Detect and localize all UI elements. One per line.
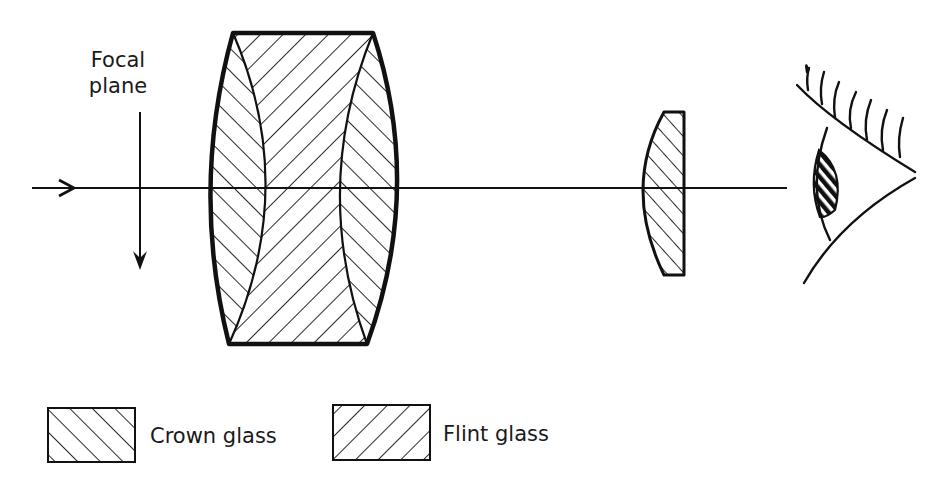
focal-plane-label-line2: plane [84, 73, 152, 99]
legend-flint-label: Flint glass [443, 422, 549, 446]
focal-plane-label-line1: Focal [84, 47, 152, 73]
legend-flint-swatch [333, 405, 430, 460]
eye-lens [638, 112, 686, 275]
eye-cornea-icon [814, 150, 838, 217]
objective-lens [205, 33, 412, 344]
legend-crown-label: Crown glass [150, 424, 277, 448]
focal-plane-label: Focal plane [84, 47, 152, 99]
focal-plane-arrow-icon [133, 112, 147, 270]
legend-crown-swatch [48, 408, 135, 462]
